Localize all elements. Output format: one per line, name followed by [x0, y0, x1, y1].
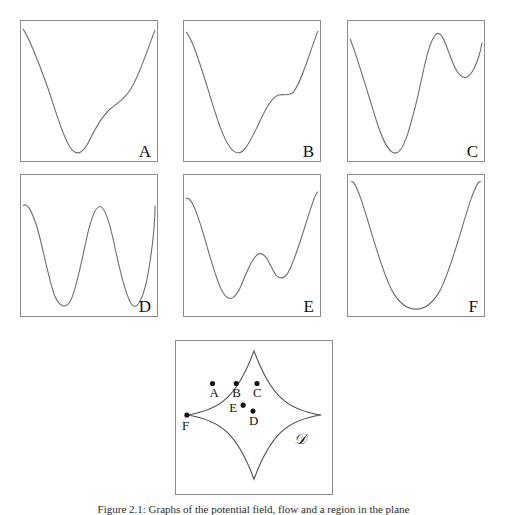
panel-label-b: B: [303, 143, 314, 160]
panel-label-c: C: [467, 143, 478, 160]
panel-label-d: D: [139, 298, 151, 315]
panel-label-f: F: [469, 298, 478, 315]
region-domain-label: 𝒟: [294, 431, 309, 447]
graph-panel-f: F: [347, 174, 485, 317]
region-point-f-label: F: [182, 419, 189, 433]
region-point-f-dot: [184, 412, 189, 417]
graph-panel-b: B: [183, 20, 321, 162]
graph-curve-b: [184, 21, 320, 161]
region-point-b-label: B: [232, 386, 241, 400]
figure-caption: Figure 2.1: Graphs of the potential fiel…: [0, 503, 507, 515]
panel-label-a: A: [139, 143, 151, 160]
figure-root: A B C D E F: [0, 0, 507, 515]
region-point-d-label: D: [249, 414, 258, 428]
graph-curve-c: [348, 21, 484, 161]
region-point-c-dot: [254, 381, 259, 386]
graph-curve-e: [184, 175, 320, 316]
region-point-e-label: E: [229, 401, 237, 415]
region-point-b-dot: [234, 381, 239, 386]
graph-panel-e: E: [183, 174, 321, 317]
graph-curve-a: [21, 21, 157, 161]
graph-panel-c: C: [347, 20, 485, 162]
graph-panel-a: A: [20, 20, 158, 162]
graph-panel-d: D: [20, 174, 158, 317]
graph-curve-f: [348, 175, 484, 316]
region-point-a-dot: [210, 381, 215, 386]
panel-label-e: E: [304, 298, 314, 315]
region-point-a-label: A: [210, 386, 220, 400]
region-point-d-dot: [250, 409, 255, 414]
region-point-c-label: C: [253, 386, 262, 400]
graph-curve-d: [21, 175, 157, 316]
region-diagram: A B C E D F 𝒟: [176, 341, 332, 494]
region-point-e-dot: [241, 403, 246, 408]
region-panel-domain: A B C E D F 𝒟: [175, 340, 333, 495]
